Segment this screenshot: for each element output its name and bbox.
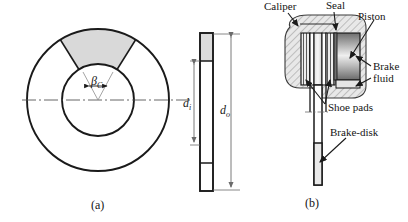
- brake-fluid-line-1: Brake: [373, 60, 399, 72]
- disk-brake-figure: βC di do Caliper Seal Piston Brake fluid…: [0, 0, 408, 222]
- brake-fluid-chamber: [336, 80, 360, 88]
- seal-ring: [334, 33, 337, 80]
- shoe-pad-left-backing: [310, 33, 314, 85]
- do-subscript: o: [226, 110, 230, 119]
- caption-b: (b): [305, 196, 319, 211]
- part-a-side-view: [190, 33, 240, 191]
- beta-c-angle-label: βC: [91, 74, 102, 90]
- shoe-pad-right-backing: [322, 33, 326, 85]
- brake-disk-leader: [320, 138, 346, 162]
- shoe-pads-label: Shoe pads: [328, 102, 373, 114]
- caliper-label: Caliper: [264, 1, 296, 13]
- caption-a: (a): [91, 198, 104, 213]
- piston-label: Piston: [358, 11, 386, 23]
- inner-diameter-label: di: [183, 96, 191, 112]
- brake-fluid-line-2: fluid: [373, 72, 399, 84]
- part-a-face-view: [22, 29, 190, 171]
- di-subscript: i: [189, 103, 191, 112]
- shoe-pad-left-block: [301, 33, 310, 85]
- brake-disk-segment-in-caliper: [314, 33, 322, 85]
- seal-label: Seal: [326, 0, 345, 12]
- disk-side-top-pad: [201, 34, 212, 61]
- brake-disk-label: Brake-disk: [330, 127, 378, 139]
- part-b-assembly: [285, 12, 374, 185]
- outer-diameter-label: do: [220, 103, 230, 119]
- brake-fluid-label: Brake fluid: [373, 60, 399, 85]
- brake-disk-lower-shaded: [314, 143, 322, 185]
- beta-subscript: C: [97, 81, 102, 90]
